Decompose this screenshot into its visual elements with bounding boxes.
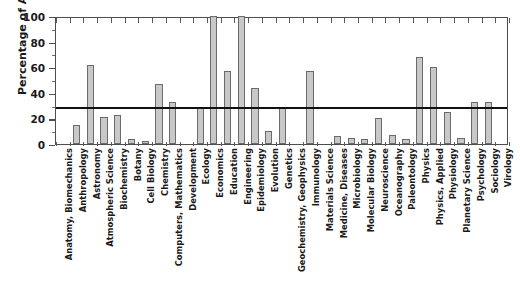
x-axis-tick-label: Physics, Applied <box>436 148 444 225</box>
x-tick-top <box>111 18 112 23</box>
x-axis-tick-label: Anthropology <box>79 148 87 212</box>
x-tick-top <box>125 18 126 23</box>
x-tick-bottom <box>97 142 98 146</box>
y-tick-label: 60 <box>0 63 45 73</box>
y-tick-label: 100 <box>0 12 45 22</box>
x-axis-tick-label: Botany <box>134 148 142 181</box>
x-tick-top <box>454 18 455 23</box>
bar <box>238 16 245 144</box>
y-tick-label: 0 <box>0 140 45 150</box>
reference-line <box>56 107 507 109</box>
x-axis-tick-label: Paleontology <box>408 148 416 210</box>
x-axis-tick-label: Immunology <box>312 148 320 206</box>
x-axis-tick-label: Education <box>230 148 238 195</box>
bar <box>430 67 437 144</box>
x-tick-bottom <box>372 142 373 146</box>
x-tick-bottom <box>70 142 71 146</box>
x-tick-top <box>482 18 483 23</box>
x-axis-tick-label: Development <box>189 148 197 211</box>
y-tick-label: 40 <box>0 89 45 99</box>
x-tick-top <box>83 18 84 23</box>
x-tick-top <box>207 18 208 23</box>
x-tick-top <box>138 18 139 23</box>
x-tick-bottom <box>303 142 304 146</box>
x-tick-top <box>317 18 318 23</box>
x-tick-top <box>372 18 373 23</box>
bar <box>251 88 258 144</box>
x-tick-top <box>413 18 414 23</box>
y-axis-ticks: 020406080100 <box>0 17 55 145</box>
x-tick-bottom <box>440 142 441 146</box>
y-tick-label: 80 <box>0 38 45 48</box>
bar <box>334 136 341 144</box>
x-tick-bottom <box>454 142 455 146</box>
x-tick-top <box>427 18 428 23</box>
x-tick-top <box>331 18 332 23</box>
x-tick-top <box>180 18 181 23</box>
x-axis-tick-label: Engineering <box>244 148 252 205</box>
bar-chart-figure: Percentage of Articles 020406080100 Anat… <box>0 0 520 287</box>
x-axis-tick-label: Geochemistry, Geophysics <box>298 148 306 272</box>
x-tick-top <box>166 18 167 23</box>
x-tick-bottom <box>83 142 84 146</box>
bar-series <box>56 18 507 144</box>
x-tick-top <box>221 18 222 23</box>
bar <box>457 138 464 144</box>
y-tick-mark <box>49 145 55 146</box>
bar <box>210 16 217 144</box>
x-axis-tick-label: Sociology <box>491 148 499 193</box>
x-tick-top <box>509 18 510 23</box>
x-tick-top <box>495 18 496 23</box>
bar <box>444 112 451 144</box>
x-tick-bottom <box>427 142 428 146</box>
bar <box>142 141 149 144</box>
x-axis-tick-label: Evolution <box>271 148 279 192</box>
x-tick-bottom <box>344 142 345 146</box>
x-tick-bottom <box>248 142 249 146</box>
x-axis-tick-label: Virology <box>504 148 512 187</box>
x-tick-top <box>344 18 345 23</box>
bar <box>197 107 204 144</box>
x-tick-top <box>276 18 277 23</box>
x-axis-tick-label: Planetary Science <box>463 148 471 233</box>
x-tick-top <box>234 18 235 23</box>
x-axis-tick-label: Materials Science <box>326 148 334 231</box>
bar <box>402 139 409 144</box>
y-tick-label: 20 <box>0 114 45 124</box>
bar <box>389 135 396 144</box>
bar <box>128 139 135 144</box>
bar <box>155 84 162 144</box>
x-tick-bottom <box>207 142 208 146</box>
x-tick-bottom <box>468 142 469 146</box>
x-axis-tick-label: Anatomy, Biomechanics <box>65 148 73 260</box>
x-tick-bottom <box>482 142 483 146</box>
x-tick-bottom <box>331 142 332 146</box>
x-axis-tick-label: Astronomy <box>93 148 101 199</box>
x-axis-tick-label: Ecology <box>202 148 210 185</box>
x-axis-tick-label: Epidemiology <box>257 148 265 212</box>
bar <box>87 65 94 144</box>
x-tick-bottom <box>399 142 400 146</box>
x-axis-tick-label: Genetics <box>285 148 293 189</box>
x-axis-labels: Anatomy, BiomechanicsAnthropologyAstrono… <box>55 148 508 286</box>
x-tick-bottom <box>358 142 359 146</box>
bar <box>361 139 368 144</box>
x-tick-top <box>468 18 469 23</box>
x-axis-tick-label: Physics <box>422 148 430 183</box>
bar <box>100 117 107 144</box>
x-tick-bottom <box>234 142 235 146</box>
x-tick-bottom <box>193 142 194 146</box>
x-tick-bottom <box>125 142 126 146</box>
x-tick-bottom <box>262 142 263 146</box>
x-axis-tick-label: Chemistry <box>161 148 169 196</box>
bar <box>416 57 423 144</box>
bar <box>73 125 80 144</box>
x-axis-tick-label: Microbiology <box>353 148 361 209</box>
x-axis-tick-label: Medicine, Diseases <box>340 148 348 238</box>
x-tick-bottom <box>509 142 510 146</box>
x-axis-tick-label: Neuroscience <box>381 148 389 212</box>
x-tick-top <box>303 18 304 23</box>
x-tick-top <box>152 18 153 23</box>
x-axis-tick-label: Physiology <box>449 148 457 199</box>
x-axis-tick-label: Cell Biology <box>147 148 155 204</box>
